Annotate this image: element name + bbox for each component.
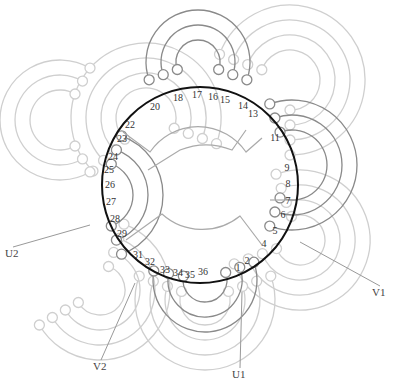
terminal-label-v1: V1	[372, 286, 385, 298]
terminal-label-u1: U1	[232, 368, 245, 380]
slot-number: 4	[262, 238, 267, 249]
coil-arc	[277, 215, 325, 265]
coil-arc	[180, 291, 230, 325]
slot-outline	[148, 130, 246, 170]
slot-number: 11	[270, 132, 280, 143]
slot-number: 33	[160, 264, 170, 275]
coil-terminal	[214, 65, 224, 75]
slot-number: 8	[286, 178, 291, 189]
coil-terminal	[221, 267, 231, 277]
coil-terminal	[47, 313, 57, 323]
coil-terminal	[211, 139, 221, 149]
slot-number: 17	[192, 89, 202, 100]
coil-terminal	[275, 193, 285, 203]
coil-terminal	[265, 99, 275, 109]
slot-outline	[126, 214, 262, 245]
slot-number: 32	[145, 256, 155, 267]
slot-number: 26	[105, 179, 115, 190]
coil-arc	[176, 40, 220, 70]
coil-arc	[135, 276, 275, 370]
coil-terminal	[78, 154, 88, 164]
slot-number: 28	[110, 213, 120, 224]
coil-arc	[15, 75, 83, 165]
coil-terminal	[243, 60, 253, 70]
slot-number: 9	[285, 162, 290, 173]
slot-number: 24	[108, 151, 118, 162]
winding-diagram: 1245678911131415161718202223242526272829…	[0, 0, 393, 390]
coil-terminal	[270, 207, 280, 217]
terminal-leader	[101, 283, 135, 360]
terminal-labels: U1U2V1V2	[5, 225, 385, 380]
winding-diagram-svg: 1245678911131415161718202223242526272829…	[0, 0, 393, 390]
coil-arc	[234, 170, 370, 310]
coil-terminal	[70, 141, 80, 151]
slot-number: 1	[236, 262, 241, 273]
slot-number: 23	[117, 133, 127, 144]
slot-number: 13	[248, 108, 258, 119]
coil-terminal	[183, 128, 193, 138]
slot-number: 5	[273, 225, 278, 236]
coil-terminal	[271, 169, 281, 179]
slot-number: 29	[117, 228, 127, 239]
slot-number: 20	[150, 101, 160, 112]
coil-terminal	[266, 271, 276, 281]
coil-terminal	[257, 65, 267, 75]
coil-arc	[122, 136, 163, 254]
coil-terminal	[158, 70, 168, 80]
coil-terminal	[70, 89, 80, 99]
slot-number: 34	[173, 267, 183, 278]
slot-number: 27	[106, 196, 116, 207]
coil-terminal	[78, 76, 88, 86]
coil-arc	[78, 267, 125, 315]
coil-terminal	[60, 305, 70, 315]
slot-number: 31	[133, 249, 143, 260]
coil-terminal	[117, 249, 127, 259]
coil-terminal	[144, 75, 154, 85]
terminal-leader	[300, 242, 380, 286]
slot-number: 36	[198, 266, 208, 277]
coil-terminal	[85, 167, 95, 177]
coil-terminal	[229, 54, 239, 64]
coil-terminal	[285, 105, 295, 115]
coil-terminal	[285, 120, 295, 130]
slot-number: 35	[185, 269, 195, 280]
slot-number: 25	[104, 164, 114, 175]
slot-number: 2	[245, 255, 250, 266]
coil-arc	[30, 90, 75, 150]
coil-arc	[65, 252, 140, 330]
coil-arc	[150, 281, 260, 355]
coil-terminal	[85, 63, 95, 73]
slot-number: 18	[173, 92, 183, 103]
coil-terminal	[197, 134, 207, 144]
slot-number: 15	[220, 94, 230, 105]
coil-terminal	[242, 75, 252, 85]
faint-coil-groups	[0, 5, 370, 370]
coil-terminal	[104, 262, 114, 272]
slot-number: 6	[281, 209, 286, 220]
slot-number: 22	[125, 119, 135, 130]
slot-number: 14	[238, 100, 248, 111]
coil-terminal	[34, 320, 44, 330]
coil-terminal	[172, 65, 182, 75]
slot-number: 7	[286, 195, 291, 206]
coil-terminal	[73, 298, 83, 308]
terminal-leader	[240, 292, 242, 368]
coil-arc	[161, 25, 235, 75]
slot-number: 16	[208, 91, 218, 102]
coil-terminal	[228, 70, 238, 80]
terminal-label-u2: U2	[5, 247, 18, 259]
terminal-label-v2: V2	[93, 360, 106, 372]
terminal-leader	[13, 225, 90, 247]
